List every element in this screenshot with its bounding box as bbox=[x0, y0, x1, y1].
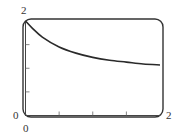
x-axis-ticks bbox=[59, 112, 126, 116]
viewing-window-frame bbox=[23, 19, 163, 117]
data-curve bbox=[26, 21, 161, 65]
x-max-label: 2 bbox=[166, 110, 172, 121]
y-max-label: 2 bbox=[21, 5, 27, 16]
y-min-label: 0 bbox=[13, 110, 19, 121]
x-min-label: 0 bbox=[23, 123, 29, 134]
y-axis-ticks bbox=[26, 45, 30, 92]
chart-plot bbox=[0, 0, 176, 138]
